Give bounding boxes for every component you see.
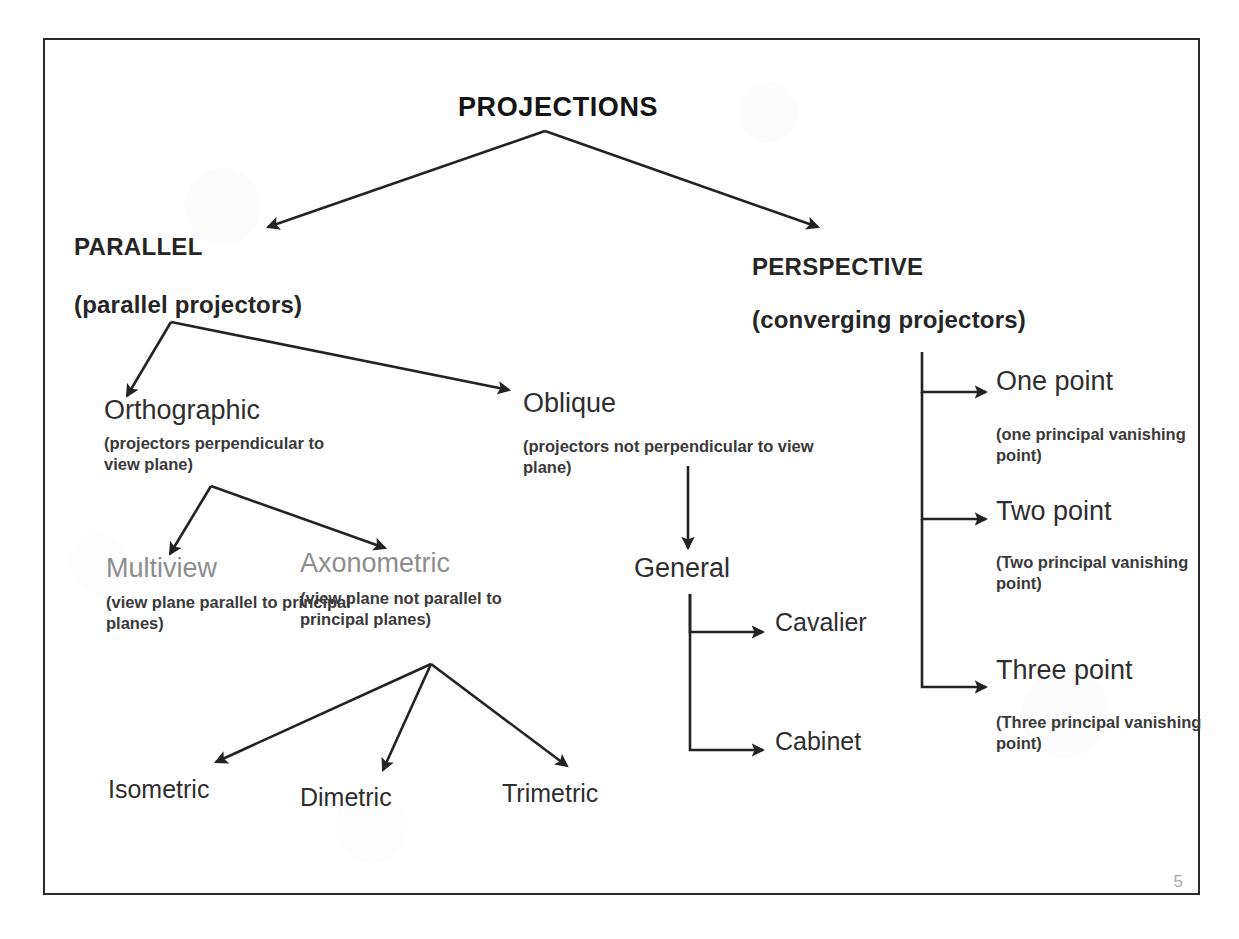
node-axonometric-label: Axonometric xyxy=(300,548,450,579)
node-cabinet-label: Cabinet xyxy=(775,727,861,756)
node-two-point-label: Two point xyxy=(996,496,1112,527)
node-oblique-label: Oblique xyxy=(523,388,616,419)
node-one-point-sub: (one principal vanishing point) xyxy=(996,424,1206,466)
node-parallel-paren: (parallel projectors) xyxy=(74,291,302,319)
node-dimetric-label: Dimetric xyxy=(300,783,392,812)
node-general-label: General xyxy=(634,553,730,584)
node-orthographic-label: Orthographic xyxy=(104,395,260,426)
slide-canvas: PROJECTIONS PARALLEL (parallel projector… xyxy=(0,0,1239,939)
node-trimetric-label: Trimetric xyxy=(502,779,598,808)
node-one-point-label: One point xyxy=(996,366,1113,397)
node-two-point-sub: (Two principal vanishing point) xyxy=(996,552,1206,594)
node-perspective-label: PERSPECTIVE xyxy=(752,253,923,281)
node-perspective-paren: (converging projectors) xyxy=(752,306,1026,334)
node-orthographic-sub: (projectors perpendicular to view plane) xyxy=(104,433,354,475)
node-three-point-sub: (Three principal vanishing point) xyxy=(996,712,1206,754)
page-number: 5 xyxy=(1174,872,1183,892)
node-parallel-label: PARALLEL xyxy=(74,233,203,261)
node-isometric-label: Isometric xyxy=(108,775,209,804)
node-axonometric-sub: (view plane not parallel to principal pl… xyxy=(300,588,550,630)
node-multiview-label: Multiview xyxy=(106,553,217,584)
node-cavalier-label: Cavalier xyxy=(775,608,867,637)
node-projections-label: PROJECTIONS xyxy=(458,92,658,123)
node-oblique-sub: (projectors not perpendicular to view pl… xyxy=(523,436,853,478)
node-three-point-label: Three point xyxy=(996,655,1133,686)
